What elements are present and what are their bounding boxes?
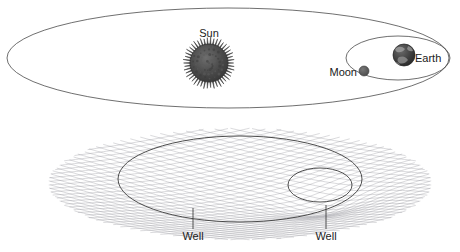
earth-well-outline bbox=[288, 168, 352, 202]
sun-well-outline bbox=[118, 136, 362, 222]
sun-well-label: Well bbox=[182, 230, 203, 242]
diagram-vector-layer: Sun Earth Moon Well Well bbox=[0, 0, 460, 252]
moon-label: Moon bbox=[329, 66, 357, 78]
earth-label: Earth bbox=[415, 52, 441, 64]
physics-figure-gravity-wells: Sun Earth Moon Well Well bbox=[0, 0, 460, 252]
sun-label: Sun bbox=[199, 27, 219, 39]
earth-well-label: Well bbox=[315, 230, 336, 242]
moon-body-icon bbox=[359, 66, 369, 76]
